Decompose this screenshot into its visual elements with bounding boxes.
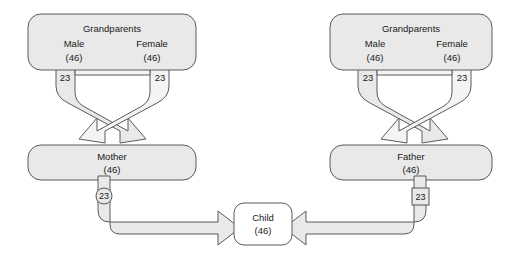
paternal-grandfather-label: Male xyxy=(365,38,386,49)
child-label: Child xyxy=(252,212,274,223)
child-count: (46) xyxy=(255,225,272,236)
father-label: Father xyxy=(397,151,424,162)
maternal-grandfather-contribution: 23 xyxy=(60,72,71,83)
maternal-grandfather-label: Male xyxy=(64,38,85,49)
father-count: (46) xyxy=(403,164,420,175)
paternal-grandfather-contribution: 23 xyxy=(363,72,374,83)
paternal-grandparents-title: Grandparents xyxy=(382,23,440,34)
maternal-grandmother-label: Female xyxy=(136,38,168,49)
maternal-grandfather-count: (46) xyxy=(66,52,83,63)
genetics-inheritance-diagram: Grandparents Male (46) Female (46) 23 23… xyxy=(0,0,515,262)
paternal-grandfather-count: (46) xyxy=(367,52,384,63)
father-to-child-arrow xyxy=(284,176,426,245)
mother-label: Mother xyxy=(97,151,127,162)
mother-to-child-arrow xyxy=(98,176,240,245)
paternal-grandmother-label: Female xyxy=(436,38,468,49)
paternal-grandmother-contribution: 23 xyxy=(457,72,468,83)
maternal-grandmother-count: (46) xyxy=(144,52,161,63)
mother-contribution-label: 23 xyxy=(99,191,109,201)
diagram-canvas: Grandparents Male (46) Female (46) 23 23… xyxy=(0,0,515,262)
father-contribution-label: 23 xyxy=(415,192,425,202)
paternal-grandmother-count: (46) xyxy=(444,52,461,63)
maternal-grandparents-title: Grandparents xyxy=(83,23,141,34)
maternal-grandmother-contribution: 23 xyxy=(155,72,166,83)
mother-count: (46) xyxy=(104,164,121,175)
child-box xyxy=(234,203,292,245)
